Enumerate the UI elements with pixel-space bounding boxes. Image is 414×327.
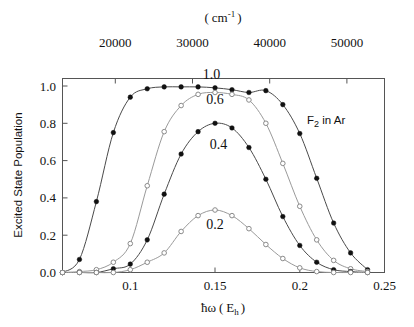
data-point: [331, 270, 336, 275]
top-tick-label: 50000: [331, 35, 364, 50]
annotation-f2-in-ar: F2 in Ar: [307, 114, 345, 129]
data-point: [94, 199, 99, 204]
data-point: [365, 270, 370, 275]
data-point: [297, 266, 302, 271]
annotation-matrix-text: in Ar: [319, 114, 345, 126]
data-point: [179, 229, 184, 234]
top-unit-close-paren: ): [237, 10, 241, 25]
y-tick-label: 0.2: [40, 228, 56, 243]
data-point: [60, 270, 65, 275]
data-point: [179, 85, 184, 90]
data-point: [111, 130, 116, 135]
svg-text:ħω(Eh): ħω(Eh): [201, 300, 245, 317]
y-tick-label: 1.0: [40, 79, 56, 94]
top-tick-label: 30000: [176, 35, 209, 50]
data-point: [314, 176, 319, 181]
svg-text:F2 in Ar: F2 in Ar: [307, 114, 345, 129]
data-point: [230, 87, 235, 92]
data-point: [162, 251, 167, 256]
x-axis-title-open-paren: (: [219, 300, 223, 315]
data-point: [145, 238, 150, 243]
data-point: [247, 98, 252, 103]
y-tick-label: 0.8: [40, 116, 56, 131]
data-point: [297, 243, 302, 248]
data-point: [128, 267, 133, 272]
data-point: [230, 126, 235, 131]
top-unit-exponent: -1: [228, 9, 236, 19]
data-point: [94, 270, 99, 275]
data-point: [314, 269, 319, 274]
annotation-species-symbol: F: [307, 114, 314, 126]
data-point: [264, 88, 269, 93]
y-axis-title: Excited State Population: [12, 112, 24, 237]
data-point: [281, 214, 286, 219]
data-point: [145, 260, 150, 265]
data-point: [331, 221, 336, 226]
data-point: [162, 129, 167, 134]
curve-label: 0.2: [206, 217, 224, 232]
data-point: [196, 129, 201, 134]
data-point: [111, 260, 116, 265]
top-axis-ticks: [115, 79, 347, 84]
data-point: [196, 213, 201, 218]
data-point: [128, 95, 133, 100]
x-axis-title-subscript: h: [234, 307, 239, 317]
data-point: [264, 177, 269, 182]
top-unit-open-paren: (: [204, 10, 208, 25]
x-tick-label: 0.15: [204, 278, 227, 293]
data-point: [179, 152, 184, 157]
data-point: [247, 90, 252, 95]
data-point: [162, 192, 167, 197]
top-unit-cm: cm: [212, 10, 228, 25]
x-axis-title-hbar-omega: ħω: [201, 300, 217, 315]
top-axis-unit-label: (cm-1): [204, 9, 241, 25]
top-tick-label: 20000: [99, 35, 132, 50]
data-point: [297, 204, 302, 209]
figure-container: (cm-1) 20000300004000050000 0.00.20.40.6…: [0, 0, 414, 327]
x-axis-title-energy-symbol: E: [226, 300, 234, 315]
y-tick-label: 0.4: [40, 190, 57, 205]
data-point: [213, 208, 218, 213]
plot-frame: [63, 79, 385, 273]
x-tick-label: 0.1: [122, 278, 138, 293]
data-point: [247, 226, 252, 231]
x-axis-title: ħω(Eh): [201, 300, 245, 317]
data-point: [281, 102, 286, 107]
curve-labels: 1.00.60.40.2: [203, 67, 227, 231]
data-point: [281, 161, 286, 166]
data-point: [111, 270, 116, 275]
data-point: [348, 270, 353, 275]
data-point: [128, 241, 133, 246]
data-point: [179, 103, 184, 108]
data-point: [348, 251, 353, 256]
data-point: [230, 213, 235, 218]
data-point: [297, 131, 302, 136]
data-point: [77, 257, 82, 262]
data-point: [281, 256, 286, 261]
y-axis-tick-labels: 0.00.20.40.60.81.0: [40, 79, 57, 281]
x-tick-label: 0.2: [292, 278, 308, 293]
y-tick-label: 0.0: [40, 265, 56, 280]
curve-label: 0.4: [210, 137, 228, 152]
top-tick-label: 40000: [253, 35, 286, 50]
x-axis-title-close-paren: ): [241, 300, 245, 315]
data-point: [77, 270, 82, 275]
curve-label: 0.6: [206, 92, 224, 107]
curve-label: 1.0: [203, 67, 221, 82]
data-point: [230, 92, 235, 97]
data-point: [162, 85, 167, 90]
excited-state-population-chart: (cm-1) 20000300004000050000 0.00.20.40.6…: [0, 0, 414, 327]
data-point: [264, 121, 269, 126]
top-axis-tick-labels: 20000300004000050000: [99, 35, 363, 50]
y-axis-ticks: [63, 86, 68, 273]
data-point: [145, 86, 150, 91]
x-axis-tick-labels: 0.10.150.20.25: [122, 278, 396, 293]
y-tick-label: 0.6: [40, 153, 57, 168]
data-point: [196, 85, 201, 90]
data-point: [314, 238, 319, 243]
data-point: [213, 121, 218, 126]
x-tick-label: 0.25: [373, 278, 396, 293]
data-point: [213, 86, 218, 91]
data-point: [247, 145, 252, 150]
data-point: [331, 258, 336, 263]
